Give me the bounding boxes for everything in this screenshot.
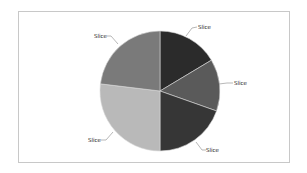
pie-slice-4 <box>100 84 160 151</box>
data-label-slice-4: Slice <box>88 137 102 143</box>
leader-line-slice-5 <box>107 36 118 44</box>
data-label-slice-1: Slice <box>198 24 212 30</box>
pie-chart: Slice Slice Slice Slice Slice <box>0 0 307 173</box>
pie-slices <box>100 31 220 151</box>
pie-slice-5 <box>100 31 160 91</box>
data-label-slice-2: Slice <box>234 80 248 86</box>
leader-line-slice-1 <box>186 27 197 36</box>
data-label-slice-3: Slice <box>206 147 220 153</box>
leader-line-slice-4 <box>101 132 113 140</box>
data-label-slice-5: Slice <box>94 33 108 39</box>
leader-line-slice-2 <box>219 83 233 84</box>
leader-line-slice-3 <box>196 142 206 150</box>
